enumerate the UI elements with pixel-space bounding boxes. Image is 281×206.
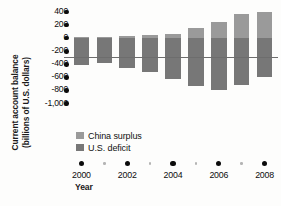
y-tick-dot [64,75,69,80]
bar-us-deficit [234,38,250,84]
legend-item-us-deficit: U.S. deficit [76,142,142,153]
bar-us-deficit [211,38,227,90]
zero-baseline [64,57,278,58]
legend-swatch-china-surplus [76,132,84,140]
y-tick-label: -200 [26,45,68,55]
chart-figure: Current account balance (billions of U.S… [0,0,281,206]
x-tick-dot-major [79,161,84,166]
x-tick-label: 2002 [107,170,147,180]
x-axis-title: Year [75,182,93,192]
legend-label-us-deficit: U.S. deficit [88,143,130,153]
y-tick-dot [64,36,69,41]
bar-us-deficit [165,38,181,79]
bar-china-surplus [211,22,227,38]
bar-china-surplus [257,12,273,38]
plot-area [70,12,276,104]
x-tick-label: 2006 [199,170,239,180]
x-tick-dot-major [216,161,221,166]
legend-label-china-surplus: China surplus [88,131,142,141]
bar-us-deficit [97,38,113,63]
bar-china-surplus [188,28,204,39]
x-tick-dot-minor [149,162,152,165]
y-tick-label: -800 [26,84,68,94]
x-tick-dot-minor [103,162,106,165]
x-tick-dot-minor [195,162,198,165]
x-tick-label: 2000 [61,170,101,180]
y-tick-dot [64,49,69,54]
bar-us-deficit [142,38,158,72]
y-tick-label: -400 [26,58,68,68]
x-tick-label: 2008 [245,170,281,180]
y-tick-label: 0 [26,32,68,42]
legend-item-china-surplus: China surplus [76,130,142,141]
x-tick-label: 2004 [153,170,193,180]
bar-china-surplus [234,14,250,38]
y-tick-label: 400 [26,6,68,16]
x-tick-dot-major [262,161,267,166]
y-tick-label: -600 [26,71,68,81]
legend-swatch-us-deficit [76,144,84,152]
bar-us-deficit [119,38,135,67]
y-tick-dot [64,10,69,15]
x-tick-dot-major [170,161,175,166]
bar-us-deficit [188,38,204,86]
x-tick-dot-major [125,161,130,166]
y-tick-dot [64,23,69,28]
y-tick-label: -1,000 [26,98,68,108]
x-tick-dot-minor [240,162,243,165]
y-tick-label: 200 [26,19,68,29]
y-tick-dot [64,101,69,106]
y-tick-dot [64,62,69,67]
chart-legend: China surplus U.S. deficit [76,130,142,154]
y-tick-dot [64,88,69,93]
bar-us-deficit [74,38,90,65]
